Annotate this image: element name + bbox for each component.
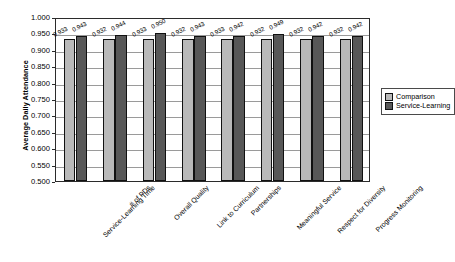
bar-group: 0.9320.942 — [340, 19, 364, 181]
legend-item-service-learning: Service-Learning — [385, 102, 450, 110]
bar-comparison — [143, 39, 155, 181]
y-axis-tick-label: 0.850 — [4, 63, 50, 71]
y-axis-tick-label: 0.550 — [4, 162, 50, 170]
legend-swatch-comparison — [385, 93, 393, 101]
bar-service-learning — [312, 36, 324, 181]
y-axis-tick-label: 0.900 — [4, 47, 50, 55]
bar-value-label: 0.943 — [71, 20, 88, 33]
bar-group: 0.9320.949 — [261, 19, 285, 181]
y-axis-title: Average Daily Attendance — [21, 36, 30, 176]
y-axis-tick-mark — [52, 84, 55, 85]
bar-group: 0.9330.943 — [64, 19, 88, 181]
bar-value-label: 0.932 — [170, 25, 187, 38]
bar-value-label: 0.932 — [327, 25, 344, 38]
y-axis-tick-mark — [52, 133, 55, 134]
legend-item-comparison: Comparison — [385, 93, 450, 101]
y-axis-tick-mark — [52, 182, 55, 183]
bar-value-label: 0.942 — [307, 20, 324, 33]
bar-value-label: 0.933 — [209, 25, 226, 38]
bar-value-label: 0.942 — [228, 20, 245, 33]
bar-comparison — [340, 39, 352, 181]
bar-service-learning — [233, 36, 245, 181]
x-axis-category-label: Meaningful Service — [295, 184, 342, 231]
bar-group: 0.9330.942 — [221, 19, 245, 181]
bar-group: 0.9320.942 — [300, 19, 324, 181]
y-axis-tick-label: 0.700 — [4, 112, 50, 120]
y-axis-tick-mark — [52, 67, 55, 68]
y-axis-tick-label: 0.650 — [4, 129, 50, 137]
x-axis-category-label: Overall Quality — [173, 184, 210, 221]
bar-group: 0.9320.943 — [182, 19, 206, 181]
bar-service-learning — [352, 36, 364, 181]
bar-service-learning — [194, 36, 206, 181]
bar-comparison — [103, 39, 115, 181]
bar-value-label: 0.933 — [52, 25, 69, 38]
y-axis-tick-label: 1.000 — [4, 14, 50, 22]
bar-service-learning — [115, 35, 127, 181]
y-axis-tick-mark — [52, 34, 55, 35]
bar-value-label: 0.932 — [91, 25, 108, 38]
y-axis-tick-label: 0.950 — [4, 30, 50, 38]
bar-comparison — [221, 39, 233, 181]
bar-group: 0.9330.950 — [143, 19, 167, 181]
y-axis-tick-label: 0.500 — [4, 178, 50, 186]
bar-comparison — [182, 39, 194, 181]
y-axis-tick-mark — [52, 51, 55, 52]
y-axis-tick-mark — [52, 116, 55, 117]
bar-value-label: 0.943 — [189, 20, 206, 33]
bar-service-learning — [155, 33, 167, 181]
bar-value-label: 0.944 — [110, 19, 127, 32]
bar-value-label: 0.932 — [249, 25, 266, 38]
bar-value-label: 0.933 — [131, 25, 148, 38]
bar-comparison — [300, 39, 312, 181]
y-axis-tick-label: 0.800 — [4, 80, 50, 88]
bar-group: 0.9320.944 — [103, 19, 127, 181]
y-axis-tick-mark — [52, 149, 55, 150]
legend-swatch-service-learning — [385, 102, 393, 110]
bar-comparison — [261, 39, 273, 181]
y-axis-tick-mark — [52, 100, 55, 101]
bars-layer: 0.9330.9430.9320.9440.9330.9500.9320.943… — [56, 19, 369, 181]
legend: Comparison Service-Learning — [381, 88, 455, 115]
plot-area: 0.9330.9430.9320.9440.9330.9500.9320.943… — [55, 18, 370, 182]
y-axis-tick-mark — [52, 166, 55, 167]
y-axis-tick-mark — [52, 18, 55, 19]
y-axis-tick-label: 0.750 — [4, 96, 50, 104]
x-axis-category-labels: Service-Learning Time# of PDsOverall Qua… — [55, 184, 370, 262]
bar-service-learning — [76, 36, 88, 181]
y-axis-tick-label: 0.600 — [4, 145, 50, 153]
legend-label-service-learning: Service-Learning — [396, 102, 450, 110]
bar-value-label: 0.932 — [288, 25, 305, 38]
bar-comparison — [64, 39, 76, 181]
bar-value-label: 0.942 — [346, 20, 363, 33]
bar-value-label: 0.950 — [150, 17, 167, 30]
bar-value-label: 0.949 — [268, 18, 285, 31]
legend-label-comparison: Comparison — [396, 93, 435, 101]
bar-service-learning — [273, 34, 285, 181]
